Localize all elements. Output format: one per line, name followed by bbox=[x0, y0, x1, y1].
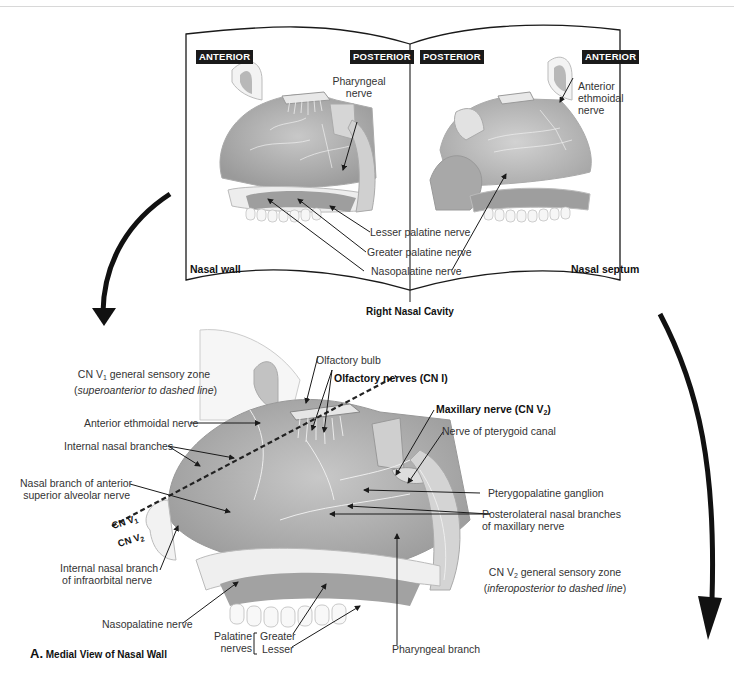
tag-posterior-right: POSTERIOR bbox=[420, 50, 484, 64]
label-pharyngeal-nerve: Pharyngeal nerve bbox=[332, 75, 386, 99]
tag-posterior-left: POSTERIOR bbox=[350, 50, 414, 64]
caption-nasal-wall: Nasal wall bbox=[190, 263, 241, 275]
label-posterolateral-nasal-branches: Posterolateral nasal branches of maxilla… bbox=[482, 508, 621, 532]
label-anterior-ethmoidal-nerve: Anterior ethmoidal nerve bbox=[84, 417, 198, 429]
label-greater-palatine-nerve: Greater palatine nerve bbox=[367, 246, 471, 258]
tag-anterior-right: ANTERIOR bbox=[582, 50, 639, 64]
label-nasopalatine-nerve: Nasopalatine nerve bbox=[102, 618, 192, 630]
label-olfactory-bulb: Olfactory bulb bbox=[316, 354, 381, 366]
caption-nasal-septum: Nasal septum bbox=[571, 263, 639, 275]
label-nasopalatine-nerve-top: Nasopalatine nerve bbox=[371, 265, 461, 277]
zone-v1-note: CN V1 general sensory zone (superoanteri… bbox=[74, 368, 214, 396]
label-maxillary-nerve: Maxillary nerve (CN V2) bbox=[436, 403, 551, 419]
label-palatine-greater: Greater bbox=[260, 630, 296, 642]
label-olfactory-nerves: Olfactory nerves (CN I) bbox=[334, 372, 448, 384]
label-pterygopalatine-ganglion: Pterygopalatine ganglion bbox=[488, 487, 604, 499]
palatine-bracket bbox=[254, 633, 257, 654]
label-lesser-palatine-nerve: Lesser palatine nerve bbox=[370, 226, 470, 238]
label-nerve-of-pterygoid-canal: Nerve of pterygoid canal bbox=[442, 425, 556, 437]
tag-anterior-left: ANTERIOR bbox=[196, 50, 253, 64]
panel-title-right-nasal-cavity: Right Nasal Cavity bbox=[360, 306, 460, 318]
label-palatine-nerves: Palatine nerves bbox=[212, 630, 252, 654]
label-internal-nasal-branch-infraorbital: Internal nasal branch of infraorbital ne… bbox=[60, 562, 152, 586]
curved-arrow-left bbox=[92, 194, 170, 326]
label-internal-nasal-branches: Internal nasal branches bbox=[64, 440, 173, 452]
zone-v2-note: CN V2 general sensory zone (inferoposter… bbox=[480, 566, 630, 594]
figure-caption: A. Medial View of Nasal Wall bbox=[30, 648, 167, 661]
label-nasal-branch-asa: Nasal branch of anterior superior alveol… bbox=[20, 477, 130, 501]
label-anterior-ethmoidal-nerve-top: Anterior ethmoidal nerve bbox=[578, 80, 624, 116]
curved-arrow-right bbox=[660, 314, 722, 640]
label-pharyngeal-branch: Pharyngeal branch bbox=[392, 643, 480, 655]
label-palatine-lesser: Lesser bbox=[262, 643, 294, 655]
